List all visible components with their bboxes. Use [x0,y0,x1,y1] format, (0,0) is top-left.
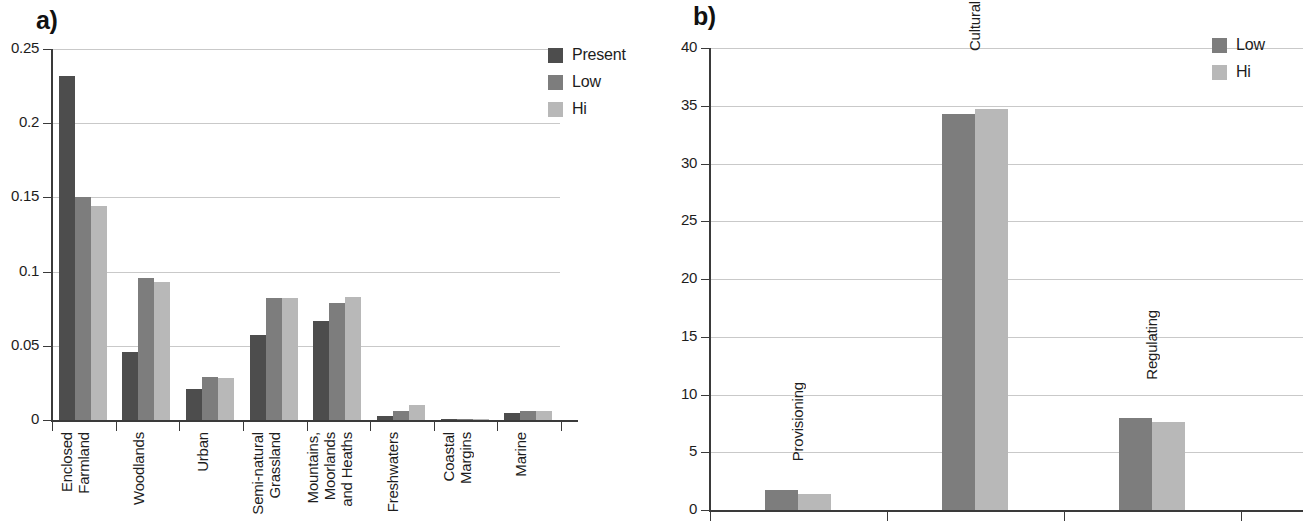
legend-swatch-icon [1212,38,1227,53]
x-axis-tick-mark [434,422,435,431]
x-axis-tick-mark [116,422,117,431]
y-axis-tick-mark [701,337,709,338]
x-axis-label-5: Freshwaters [384,432,401,512]
legend-label: Low [572,73,601,91]
group-label-2: Regulating [1143,310,1160,380]
panel-a-legend: PresentLowHi [548,46,626,127]
legend-swatch-icon [548,102,563,117]
y-axis-tick-label: 0.25 [0,39,39,56]
y-axis-tick-label: 0.05 [0,336,39,353]
y-axis-tick-mark [43,49,51,50]
y-axis-tick-label: 25 [645,211,697,228]
group-label-1: Cultural [966,1,983,51]
x-axis-tick-mark [887,512,888,521]
y-axis-tick-mark [43,197,51,198]
y-axis-line [51,49,53,421]
bar-low-2 [1119,418,1152,510]
bar-hi-0 [91,206,107,420]
panel-a: a) 00.050.10.150.20.25EnclosedFarmlandWo… [0,0,660,531]
bar-low-5 [393,411,409,420]
bar-hi-7 [536,411,552,420]
y-axis-tick-label: 10 [645,385,697,402]
gridline [51,346,560,347]
bar-present-3 [250,335,266,420]
y-axis-tick-mark [701,106,709,107]
group-label-0: Provisioning [789,382,806,461]
y-axis-tick-mark [43,346,51,347]
y-axis-tick-label: 30 [645,154,697,171]
gridline [51,272,560,273]
bar-low-0 [765,490,798,510]
panel-a-legend-item-hi[interactable]: Hi [548,100,626,118]
y-axis-tick-mark [701,510,709,511]
y-axis-tick-mark [701,452,709,453]
bar-present-7 [504,413,520,420]
panel-b-plot-area: 0510152025303540ProvisioningCulturalRegu… [660,0,1303,531]
x-axis-label-1: Woodlands [130,432,147,505]
y-axis-tick-label: 15 [645,327,697,344]
bar-present-0 [59,76,75,420]
panel-b-legend-item-low[interactable]: Low [1212,36,1265,54]
y-axis-tick-label: 5 [645,442,697,459]
y-axis-tick-label: 40 [645,38,697,55]
y-axis-tick-label: 0 [645,500,697,517]
gridline [709,106,1303,107]
x-axis-label-3: Grassland [266,432,283,499]
bar-present-1 [122,352,138,420]
legend-label: Hi [1236,63,1251,81]
x-axis-tick-mark [561,422,562,431]
y-axis-tick-label: 20 [645,269,697,286]
legend-swatch-icon [548,75,563,90]
bar-present-2 [186,389,202,420]
panel-a-legend-item-low[interactable]: Low [548,73,626,91]
legend-label: Low [1236,36,1265,54]
x-axis-label-4: Moorlands [321,432,338,500]
x-axis-tick-mark [497,422,498,431]
x-axis-tick-mark [370,422,371,431]
panel-a-legend-item-present[interactable]: Present [548,46,626,64]
bar-low-0 [75,197,91,420]
y-axis-tick-mark [701,395,709,396]
x-axis-line [709,510,1303,512]
gridline [51,197,560,198]
x-axis-tick-mark [307,422,308,431]
x-axis-label-7: Marine [512,432,529,477]
y-axis-tick-mark [701,48,709,49]
gridline [51,49,560,50]
bar-hi-1 [154,282,170,420]
y-axis-tick-label: 0.1 [0,262,39,279]
x-axis-label-0: Enclosed [58,432,75,492]
x-axis-label-4: Mountains, [304,432,321,503]
bar-present-5 [377,416,393,420]
bar-hi-0 [798,494,831,510]
x-axis-tick-mark [243,422,244,431]
bar-low-7 [520,411,536,420]
x-axis-tick-mark [1064,512,1065,521]
bar-low-1 [138,278,154,420]
y-axis-tick-mark [701,164,709,165]
bar-hi-1 [975,109,1008,510]
x-axis-label-2: Urban [194,432,211,472]
x-axis-tick-mark [1241,512,1242,521]
gridline [51,123,560,124]
bar-hi-5 [409,405,425,420]
y-axis-tick-label: 35 [645,96,697,113]
bar-hi-2 [1152,422,1185,510]
x-axis-tick-mark [52,422,53,431]
legend-swatch-icon [548,48,563,63]
y-axis-line [709,48,711,511]
y-axis-tick-mark [701,221,709,222]
y-axis-tick-mark [43,123,51,124]
bar-hi-2 [218,378,234,420]
bar-low-1 [942,114,975,510]
x-axis-label-3: Semi-natural [249,432,266,515]
y-axis-tick-label: 0.2 [0,113,39,130]
y-axis-tick-label: 0 [0,410,39,427]
y-axis-tick-label: 0.15 [0,187,39,204]
bar-low-6 [457,419,473,420]
bar-present-4 [313,321,329,420]
panel-b-legend-item-hi[interactable]: Hi [1212,63,1265,81]
panel-b: b) 0510152025303540ProvisioningCulturalR… [660,0,1303,531]
panel-b-legend: LowHi [1212,36,1265,90]
y-axis-tick-mark [43,420,51,421]
